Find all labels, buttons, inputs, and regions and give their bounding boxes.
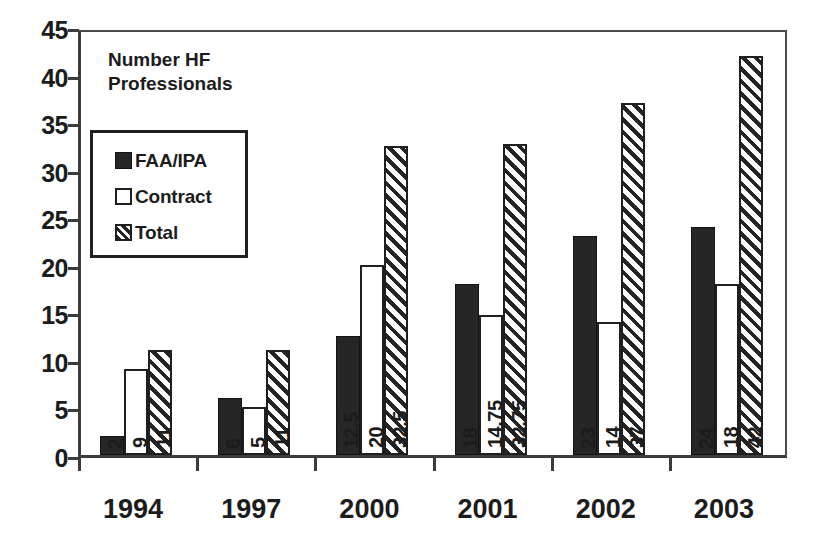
bar-value-label: 18 (721, 427, 741, 448)
legend-label: Total (135, 223, 178, 242)
bar-value-label: 5 (248, 437, 268, 448)
bar-value-label: 42 (745, 427, 765, 448)
x-axis-category-label: 2000 (339, 496, 399, 523)
bar-faa-ipa: 12.5 (336, 336, 360, 455)
legend-entry-faa-ipa: FAA/IPA (115, 142, 245, 178)
bar-value-label: 2 (105, 438, 125, 449)
bar-group: 231437 (554, 32, 672, 455)
y-axis-tick-label: 15 (2, 303, 68, 328)
bar-contract: 18 (715, 284, 739, 455)
chart-legend: FAA/IPA Contract Total (90, 130, 248, 258)
bar-total: 11 (148, 350, 172, 455)
bar-value-label: 11 (154, 428, 174, 448)
bar-value-label: 6 (223, 438, 243, 449)
legend-label: Contract (135, 187, 212, 206)
bar-value-label: 23 (578, 428, 598, 449)
bar-total: 32.75 (503, 144, 527, 455)
bar-contract: 14 (597, 322, 621, 455)
bar-faa-ipa: 2 (100, 436, 124, 455)
y-axis-tick-label: 10 (2, 350, 68, 375)
axis-annotation: Number HF Professionals (108, 48, 233, 97)
bar-value-label: 11 (272, 428, 292, 448)
x-axis-category-label: 1994 (103, 496, 163, 523)
x-axis-tick-mark (196, 458, 199, 471)
bar-value-label: 32.5 (390, 411, 410, 448)
bar-value-label: 14.75 (485, 400, 505, 448)
x-axis-category-label: 1997 (221, 496, 281, 523)
bar-value-label: 37 (627, 427, 647, 448)
bar-faa-ipa: 23 (573, 236, 597, 455)
bar-group: 241842 (672, 32, 790, 455)
legend-swatch-solid-icon (115, 152, 132, 169)
bar-contract: 9 (124, 369, 148, 455)
legend-swatch-outline-icon (115, 188, 132, 205)
legend-entry-total: Total (115, 214, 245, 250)
bar-value-label: 9 (130, 437, 150, 448)
bar-total: 37 (621, 103, 645, 455)
x-axis-category-label: 2002 (576, 496, 636, 523)
bar-chart: 051015202530354045 2911651112.52032.5181… (0, 0, 830, 549)
bar-faa-ipa: 6 (218, 398, 242, 455)
bar-value-label: 24 (696, 428, 716, 449)
bar-contract: 20 (360, 265, 384, 455)
x-axis-tick-mark (669, 458, 672, 471)
bar-value-label: 18 (460, 428, 480, 449)
y-axis-tick-label: 20 (2, 255, 68, 280)
legend-entry-contract: Contract (115, 178, 245, 214)
y-axis-tick-label: 30 (2, 160, 68, 185)
bar-group: 12.52032.5 (317, 32, 435, 455)
y-axis-tick-label: 5 (2, 398, 68, 423)
y-axis-tick-label: 25 (2, 208, 68, 233)
bar-contract: 5 (242, 407, 266, 455)
y-axis-tick-label: 0 (2, 446, 68, 471)
x-axis-tick-mark (551, 458, 554, 471)
bar-value-label: 14 (603, 427, 623, 448)
x-axis-tick-mark (78, 458, 81, 471)
x-axis-category-label: 2003 (694, 496, 754, 523)
y-axis-tick-label: 35 (2, 113, 68, 138)
bar-value-label: 20 (366, 427, 386, 448)
bar-contract: 14.75 (479, 315, 503, 455)
bar-total: 11 (266, 350, 290, 455)
legend-swatch-hatch-icon (115, 224, 132, 241)
legend-label: FAA/IPA (135, 151, 207, 170)
x-axis-tick-mark (314, 458, 317, 471)
x-axis-tick-mark (433, 458, 436, 471)
x-axis-category-label: 2001 (458, 496, 518, 523)
y-axis-tick-label: 45 (2, 18, 68, 43)
bar-group: 1814.7532.75 (436, 32, 554, 455)
bar-total: 42 (739, 56, 763, 455)
bar-total: 32.5 (384, 146, 408, 455)
bar-value-label: 12.5 (341, 412, 361, 449)
y-axis-tick-label: 40 (2, 65, 68, 90)
bar-faa-ipa: 18 (455, 284, 479, 455)
bar-faa-ipa: 24 (691, 227, 715, 455)
y-axis: 051015202530354045 (0, 0, 68, 549)
bar-value-label: 32.75 (509, 400, 529, 448)
